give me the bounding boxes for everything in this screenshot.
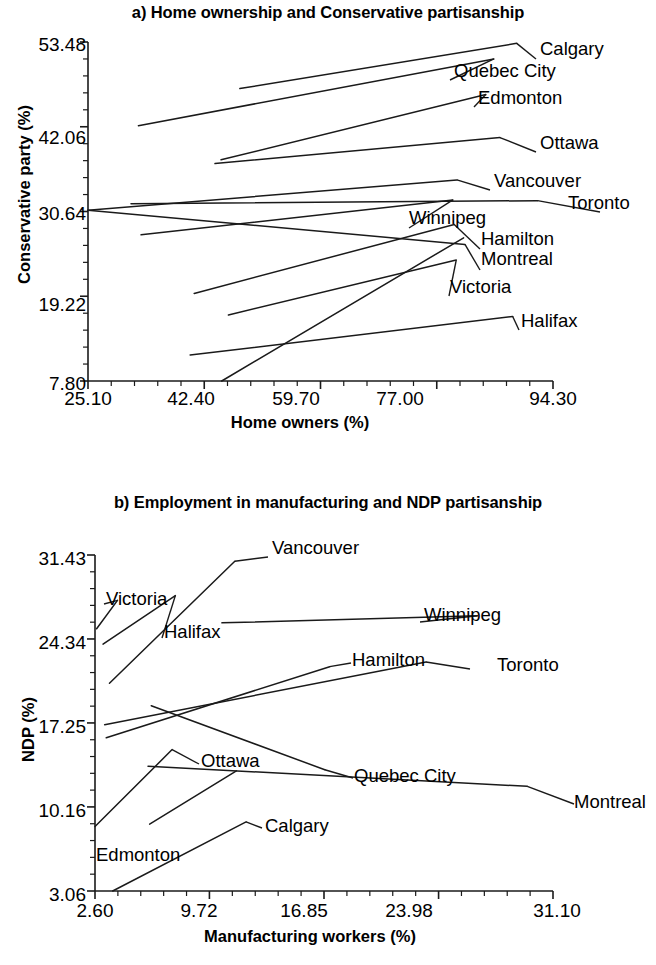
panel-a-label-ottawa: Ottawa bbox=[540, 134, 599, 153]
panel-a-x-axis-title: Home owners (%) bbox=[140, 413, 460, 432]
panel-b-x-axis-title: Manufacturing workers (%) bbox=[140, 927, 480, 946]
panel-a-y-axis-title: Conservative party (%) bbox=[15, 90, 34, 300]
panel-a-label-hamilton: Hamilton bbox=[481, 230, 554, 249]
panel-a-xtick-0: 25.10 bbox=[36, 388, 140, 410]
panel-a-xtick-1: 42.40 bbox=[139, 388, 243, 410]
leader-line-hamilton bbox=[330, 663, 351, 667]
panel-a-label-halifax: Halifax bbox=[521, 312, 578, 331]
panel-a-label-montreal: Montreal bbox=[481, 250, 553, 269]
leader-line-halifax bbox=[513, 316, 519, 330]
series-line-victoria bbox=[228, 260, 456, 315]
series-line-victoria-steep bbox=[222, 238, 464, 381]
panel-a-label-quebec-city: Quebec City bbox=[454, 62, 556, 81]
leader-line-ottawa bbox=[172, 750, 199, 764]
panel-b-label-quebec-city: Quebec City bbox=[354, 767, 456, 786]
series-line-edmonton bbox=[221, 95, 486, 160]
leader-line-toronto bbox=[426, 662, 470, 669]
panel-a-label-victoria: Victoria bbox=[450, 278, 511, 297]
panel-b-label-victoria: Victoria bbox=[106, 590, 167, 609]
panel-a-label-winnipeg: Winnipeg bbox=[409, 209, 486, 228]
figure-root: a) Home ownership and Conservative parti… bbox=[0, 0, 656, 965]
panel-a-xtick-3: 77.00 bbox=[348, 388, 452, 410]
panel-b-y-axis-title: NDP (%) bbox=[19, 682, 38, 778]
panel-a-label-calgary: Calgary bbox=[540, 40, 604, 59]
panel-b-label-montreal: Montreal bbox=[574, 793, 646, 812]
panel-b-label-vancouver: Vancouver bbox=[272, 539, 359, 558]
panel-b-label-hamilton: Hamilton bbox=[352, 651, 425, 670]
leader-line-ottawa bbox=[500, 138, 536, 152]
leader-line-vancouver bbox=[457, 180, 490, 190]
panel-b-label-edmonton: Edmonton bbox=[96, 846, 180, 865]
panel-b-label-ottawa: Ottawa bbox=[201, 752, 260, 771]
panel-b-xtick-0: 2.60 bbox=[43, 900, 147, 922]
panel-a-ytick-2: 30.64 bbox=[0, 203, 86, 225]
series-line-ottawa bbox=[95, 750, 172, 827]
leader-line-montreal bbox=[465, 244, 480, 270]
panel-b-label-winnipeg: Winnipeg bbox=[424, 606, 501, 625]
series-line-toronto bbox=[105, 662, 426, 725]
panel-b-xtick-1: 9.72 bbox=[147, 900, 251, 922]
panel-b-ytick-2: 17.25 bbox=[0, 716, 86, 738]
panel-b-ytick-3: 10.16 bbox=[0, 800, 86, 822]
leader-line-hamilton bbox=[454, 224, 480, 249]
series-line-halifax bbox=[190, 316, 513, 355]
leader-line-calgary bbox=[246, 822, 262, 828]
panel-b-xtick-2: 16.85 bbox=[252, 900, 356, 922]
series-line-edmonton bbox=[150, 771, 237, 824]
panel-b: b) Employment in manufacturing and NDP p… bbox=[0, 480, 656, 965]
series-line-quebec-city bbox=[138, 59, 493, 126]
leader-line-vancouver bbox=[235, 557, 268, 561]
panel-b-xtick-4: 31.10 bbox=[505, 900, 609, 922]
panel-b-ytick-1: 24.34 bbox=[0, 632, 86, 654]
panel-a-ytick-0: 53.48 bbox=[0, 34, 86, 56]
panel-a-ytick-3: 19.22 bbox=[0, 294, 86, 316]
panel-a-label-vancouver: Vancouver bbox=[494, 172, 581, 191]
leader-line-calgary bbox=[517, 43, 536, 59]
panel-a-label-edmonton: Edmonton bbox=[478, 89, 562, 108]
panel-a-label-toronto: Toronto bbox=[568, 194, 630, 213]
series-line-hamilton bbox=[194, 224, 454, 293]
panel-b-label-halifax: Halifax bbox=[164, 623, 221, 642]
panel-b-label-toronto: Toronto bbox=[497, 656, 559, 675]
leader-line-montreal bbox=[527, 786, 574, 804]
panel-b-xtick-3: 23.98 bbox=[357, 900, 461, 922]
panel-a-ytick-1: 42.06 bbox=[0, 127, 86, 149]
panel-a: a) Home ownership and Conservative parti… bbox=[0, 0, 656, 480]
panel-a-xtick-2: 59.70 bbox=[244, 388, 348, 410]
panel-b-label-calgary: Calgary bbox=[265, 817, 329, 836]
panel-a-xtick-4: 94.30 bbox=[501, 388, 605, 410]
panel-b-ytick-0: 31.43 bbox=[0, 548, 86, 570]
